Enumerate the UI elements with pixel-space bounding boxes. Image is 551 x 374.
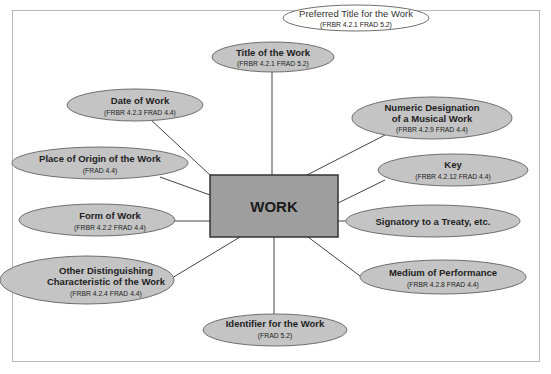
node-place-of-origin: Place of Origin of the Work (FRAD 4.4) [12, 147, 188, 179]
node-title: Key [444, 159, 462, 170]
node-title-line1: Numeric Designation [384, 102, 479, 113]
node-title-line2: of a Musical Work [392, 113, 473, 124]
node-ref: (FRBR 4.2.2 FRAD 4.4) [74, 224, 146, 232]
connector-key [338, 180, 385, 203]
node-key: Key (FRBR 4.2.12 FRAD 4.4) [378, 154, 528, 186]
node-ref: (FRBR 4.2.3 FRAD 4.4) [104, 109, 176, 117]
node-other-distinguishing: Other Distinguishing Characteristic of t… [0, 256, 174, 304]
node-ref: (FRBR 4.2.4 FRAD 4.4) [70, 290, 142, 298]
node-ref: (FRBR 4.2.1 FRAD 5.2) [320, 21, 392, 29]
connector-numeric [307, 135, 385, 175]
connector-place [160, 177, 210, 195]
node-ref: (FRBR 4.2.1 FRAD 5.2) [237, 60, 309, 68]
node-form-of-work: Form of Work (FRBR 4.2.2 FRAD 4.4) [19, 204, 175, 236]
center-work-box: WORK [210, 175, 338, 237]
node-preferred-title: Preferred Title for the Work (FRBR 4.2.1… [283, 5, 429, 31]
node-numeric-designation: Numeric Designation of a Musical Work (F… [352, 97, 512, 139]
node-title: Title of the Work [236, 47, 311, 58]
node-title-line1: Other Distinguishing [59, 265, 153, 276]
node-title: Preferred Title for the Work [299, 8, 413, 19]
node-date-of-work: Date of Work (FRBR 4.2.3 FRAD 4.4) [67, 89, 203, 121]
node-title: Form of Work [79, 210, 141, 221]
node-title-of-work: Title of the Work (FRBR 4.2.1 FRAD 5.2) [212, 42, 334, 72]
node-title-line2: Characteristic of the Work [47, 276, 166, 287]
node-medium-of-performance: Medium of Performance (FRBR 4.2.8 FRAD 4… [360, 260, 526, 294]
connector-medium [308, 237, 360, 276]
node-ref: (FRAD 4.4) [83, 167, 117, 175]
work-label: WORK [250, 198, 298, 215]
node-identifier: Identifier for the Work (FRAD 5.2) [203, 314, 347, 346]
connector-other [172, 237, 240, 278]
node-title: Date of Work [111, 95, 170, 106]
work-attributes-diagram: Preferred Title for the Work (FRBR 4.2.1… [0, 0, 551, 374]
node-ref: (FRBR 4.2.8 FRAD 4.4) [407, 281, 479, 289]
node-title: Signatory to a Treaty, etc. [376, 216, 491, 227]
node-ref: (FRBR 4.2.12 FRAD 4.4) [415, 173, 491, 181]
node-title: Place of Origin of the Work [39, 153, 161, 164]
node-title: Medium of Performance [389, 267, 497, 278]
node-signatory: Signatory to a Treaty, etc. [346, 205, 520, 237]
node-ref: (FRBR 4.2.9 FRAD 4.4) [396, 126, 468, 134]
node-title: Identifier for the Work [226, 318, 325, 329]
node-ref: (FRAD 5.2) [258, 332, 292, 340]
